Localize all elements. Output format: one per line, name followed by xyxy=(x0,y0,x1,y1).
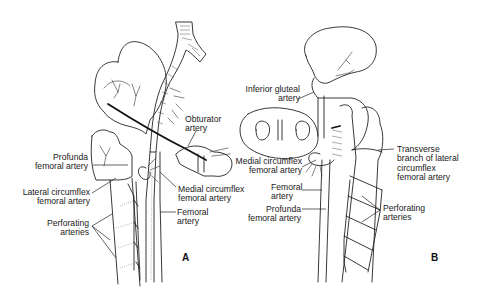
label-line: artery xyxy=(271,192,303,201)
anatomy-figure: Obturator artery Profunda femoral artery… xyxy=(0,0,481,293)
label-medial-circumflex-femoral-artery-a: Medial circumflex femoral artery xyxy=(178,185,244,204)
label-obturator-artery-a: Obturator artery xyxy=(185,115,221,134)
panel-a-drawing xyxy=(91,22,232,286)
label-line: femoral artery xyxy=(236,166,302,175)
label-line: arteries xyxy=(47,228,89,237)
label-perforating-arteries-b: Perforating arteries xyxy=(383,204,425,223)
label-line: artery xyxy=(177,217,209,226)
label-profunda-femoral-artery-b: Profunda femoral artery xyxy=(248,205,301,224)
label-femoral-artery-b: Femoral artery xyxy=(271,183,303,202)
label-perforating-arteries-a: Perforating arteries xyxy=(47,219,89,238)
panel-b-drawing xyxy=(240,27,383,282)
label-line: artery xyxy=(246,94,300,103)
panel-letter-b: B xyxy=(431,252,438,263)
label-femoral-artery-a: Femoral artery xyxy=(177,208,209,227)
label-line: femoral artery xyxy=(397,173,459,182)
label-lateral-circumflex-femoral-artery-a: Lateral circumflex femoral artery xyxy=(23,188,90,207)
label-transverse-branch-lateral-circumflex-b: Transverse branch of lateral circumflex … xyxy=(397,145,459,182)
label-line: femoral artery xyxy=(23,197,90,206)
label-inferior-gluteal-artery-b: Inferior gluteal artery xyxy=(246,85,300,104)
label-line: femoral artery xyxy=(178,194,244,203)
label-line: femoral artery xyxy=(248,214,301,223)
label-line: arteries xyxy=(383,213,425,222)
label-line: artery xyxy=(185,124,221,133)
label-line: femoral artery xyxy=(35,162,88,171)
label-profunda-femoral-artery-a: Profunda femoral artery xyxy=(35,153,88,172)
label-medial-circumflex-femoral-artery-b: Medial circumflex femoral artery xyxy=(236,157,302,176)
panel-letter-a: A xyxy=(182,252,189,263)
